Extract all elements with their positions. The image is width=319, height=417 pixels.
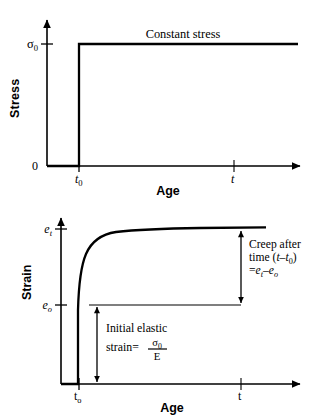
to-subscript: o xyxy=(77,396,81,405)
strain-y-eo-label: eo xyxy=(42,298,52,314)
initial-elastic-strain-annotation: Initial elastic strain= σ0 E xyxy=(106,321,167,362)
stress-y-zero-label: 0 xyxy=(32,159,38,173)
figure-svg: Stress Age 0 σ0 t0 t Constant stress xyxy=(0,0,319,417)
fraction-denominator: E xyxy=(154,350,161,362)
strain-creep-curve xyxy=(61,227,266,384)
stress-x-t0-label: t0 xyxy=(75,172,83,188)
constant-stress-annotation: Constant stress xyxy=(146,27,221,41)
stress-y-axis-title: Stress xyxy=(8,79,22,118)
stress-y-sigma0-label: σ0 xyxy=(27,37,38,53)
creep-line3-eo-subscript: o xyxy=(274,270,278,279)
creep-line2-prefix: time ( xyxy=(249,251,277,264)
chart-stress-vs-age: Stress Age 0 σ0 t0 t Constant stress xyxy=(8,20,300,198)
sigma-subscript: 0 xyxy=(34,43,38,53)
chart-strain-vs-age: Strain Age et eo to t xyxy=(20,218,301,415)
t0-subscript: 0 xyxy=(78,178,82,188)
svg-text:eo: eo xyxy=(42,298,52,314)
svg-text:to: to xyxy=(74,389,82,405)
strain-y-et-label: et xyxy=(44,222,52,238)
stress-x-axis-title: Age xyxy=(156,184,180,198)
elastic-strain-fraction: σ0 E xyxy=(148,337,167,362)
svg-text:σ0: σ0 xyxy=(27,37,38,53)
elastic-annotation-line1: Initial elastic xyxy=(106,321,167,335)
strain-x-to-label: to xyxy=(74,389,82,405)
elastic-annotation-line2: strain= xyxy=(106,340,139,354)
strain-y-axis-title: Strain xyxy=(20,265,34,300)
svg-text:et: et xyxy=(44,222,52,238)
creep-annotation-line1: Creep after xyxy=(249,238,301,251)
stress-x-t-label: t xyxy=(231,172,235,186)
creep-line2-suffix: ) xyxy=(293,251,297,264)
strain-x-t-label: t xyxy=(238,389,242,403)
et-subscript: t xyxy=(50,229,53,238)
stress-step-curve xyxy=(47,44,298,166)
creep-annotation: Creep after time (t–t0) =et–eo xyxy=(249,238,301,279)
creep-annotation-line3: =et–eo xyxy=(249,264,278,279)
svg-text:t0: t0 xyxy=(75,172,83,188)
eo-subscript: o xyxy=(48,305,52,314)
creep-under-constant-stress-figure: Stress Age 0 σ0 t0 t Constant stress xyxy=(0,0,319,417)
strain-x-axis-title: Age xyxy=(160,401,184,415)
